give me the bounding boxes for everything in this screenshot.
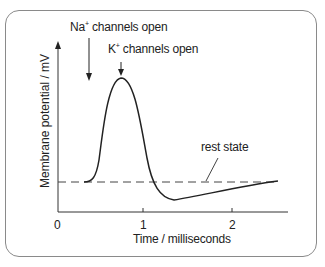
- k-channels-label: K+ channels open: [108, 42, 198, 56]
- rest-state-pointer: [206, 158, 218, 181]
- y-axis-label: Membrane potential / mV: [38, 54, 52, 188]
- x-tick-label-1: 1: [140, 218, 147, 232]
- x-tick-label-2: 2: [229, 218, 236, 232]
- k-arrow-icon: [118, 69, 124, 76]
- rest-state-label: rest state: [201, 140, 248, 154]
- na-channels-label: Na+ channels open: [70, 20, 167, 34]
- x-axis-label: Time / milliseconds: [133, 232, 231, 246]
- y-axis-arrow-icon: [55, 41, 61, 49]
- na-arrow-icon: [86, 73, 92, 81]
- x-tick-label-0: 0: [54, 218, 61, 232]
